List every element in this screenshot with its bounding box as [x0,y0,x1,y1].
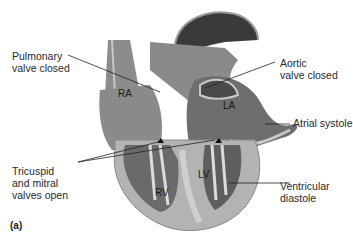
panel-label: (a) [10,220,22,231]
chamber-la: LA [223,100,235,111]
label-aortic-valve: Aortic valve closed [280,57,338,81]
label-ventricular-diastole: Ventricular diastole [280,180,330,204]
chamber-lv: LV [198,169,210,180]
chamber-rv: RV [155,187,169,198]
label-atrial-systole: Atrial systole [293,117,353,129]
label-pulmonary-valve: Pulmonary valve closed [12,50,70,74]
chamber-ra: RA [118,88,132,99]
label-tricuspid-mitral: Tricuspid and mitral valves open [12,165,68,201]
